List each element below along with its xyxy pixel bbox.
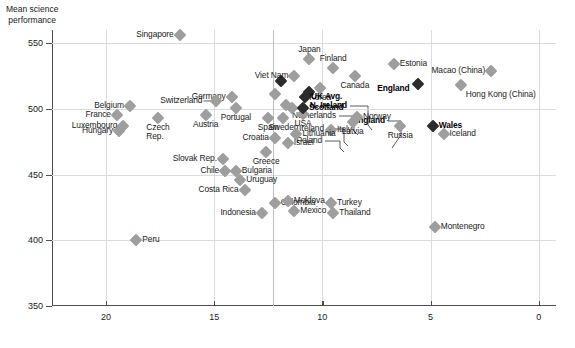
point-label: Switzerland — [160, 96, 202, 105]
point-label: Viet Nam — [255, 71, 289, 80]
point-label: Croatia — [242, 133, 268, 142]
point-label: Italy — [337, 125, 352, 134]
x-axis-tick — [322, 301, 323, 306]
y-axis-title: Mean science performance — [6, 4, 58, 26]
gridline-horizontal — [52, 240, 556, 241]
scatter-point[interactable] — [268, 88, 281, 101]
scatter-point[interactable] — [217, 152, 230, 165]
point-label: Norway — [363, 112, 391, 121]
chart-root: Mean science performance 550500450400350… — [0, 0, 575, 348]
scatter-point[interactable] — [255, 206, 268, 219]
y-axis-tick-label: 400 — [28, 235, 43, 245]
point-label: Russia — [388, 131, 413, 140]
gridline-vertical — [322, 30, 323, 306]
point-label: UK Avg. — [311, 92, 342, 101]
point-label: Macao (China) — [431, 66, 485, 75]
gridline-vertical — [106, 30, 107, 306]
scatter-point[interactable] — [327, 206, 340, 219]
scatter-point[interactable] — [426, 120, 439, 133]
point-label: England — [377, 84, 409, 93]
point-label: Iceland — [450, 129, 476, 138]
gridline-vertical — [539, 30, 540, 306]
x-axis-tick-label: 20 — [101, 312, 111, 322]
scatter-point[interactable] — [387, 58, 400, 71]
point-label: Uruguay — [246, 175, 277, 184]
scatter-point[interactable] — [281, 137, 294, 150]
point-label: Israel — [294, 138, 314, 147]
plot-area: 55050045040035020151050SingaporeN. Irela… — [52, 30, 556, 306]
y-axis-tick-label: 450 — [28, 170, 43, 180]
scatter-point[interactable] — [327, 62, 340, 75]
scatter-point[interactable] — [411, 78, 424, 91]
point-label: Japan — [298, 45, 320, 54]
x-axis-tick — [106, 301, 107, 306]
point-label: Austria — [193, 120, 218, 129]
point-label: Hungary — [82, 126, 113, 135]
point-label: Singapore — [136, 31, 173, 40]
x-axis-tick — [431, 301, 432, 306]
x-axis-tick-label: 15 — [209, 312, 219, 322]
scatter-point[interactable] — [303, 53, 316, 66]
point-label: Slovak Rep. — [173, 154, 217, 163]
point-label: Czech Rep. — [146, 123, 169, 142]
x-axis-tick-label: 0 — [536, 312, 541, 322]
y-axis-tick-label: 550 — [28, 38, 43, 48]
scatter-point[interactable] — [288, 70, 301, 83]
point-label: Scotland — [309, 103, 344, 112]
y-axis-tick — [46, 240, 52, 241]
point-label: Canada — [340, 81, 369, 90]
point-label: Thailand — [339, 208, 370, 217]
y-axis-tick-label: 500 — [28, 104, 43, 114]
y-axis-tick — [46, 109, 52, 110]
point-label: Finland — [320, 54, 347, 63]
y-axis-line — [52, 30, 53, 306]
point-label: Peru — [142, 236, 159, 245]
point-label: Portugal — [221, 113, 251, 122]
point-label: Chile — [200, 166, 219, 175]
y-axis-tick — [46, 43, 52, 44]
y-axis-tick-label: 350 — [28, 301, 43, 311]
gridline-horizontal — [52, 175, 556, 176]
scatter-point[interactable] — [123, 100, 136, 113]
point-label: Montenegro — [441, 222, 485, 231]
scatter-point[interactable] — [130, 234, 143, 247]
point-label: France — [85, 111, 110, 120]
point-label: Moldova — [294, 196, 325, 205]
point-label: Estonia — [400, 59, 427, 68]
x-axis-tick-label: 10 — [317, 312, 327, 322]
point-label: Hong Kong (China) — [466, 90, 536, 99]
y-axis-tick — [46, 175, 52, 176]
point-label: Indonesia — [220, 208, 255, 217]
point-label: Mexico — [300, 207, 326, 216]
scatter-point[interactable] — [268, 197, 281, 210]
x-axis-tick — [214, 301, 215, 306]
point-label: USA — [294, 119, 311, 128]
x-axis-tick-label: 5 — [428, 312, 433, 322]
point-label: Costa Rica — [199, 186, 239, 195]
scatter-point[interactable] — [485, 64, 498, 77]
x-axis-tick — [539, 301, 540, 306]
scatter-point[interactable] — [173, 29, 186, 42]
x-axis-line — [52, 305, 556, 306]
scatter-point[interactable] — [268, 131, 281, 144]
y-axis-tick — [46, 306, 52, 307]
